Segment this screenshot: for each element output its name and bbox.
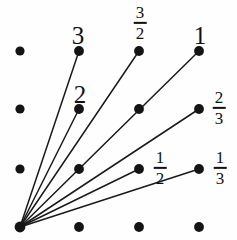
lattice-dot [134,104,144,114]
slope-label-3: 3 [72,23,85,48]
slope-label-2: 2 [74,82,87,107]
lattice-dot [15,46,24,55]
ray-slope-3-over-2 [20,51,139,227]
ray-slope-2 [20,109,79,227]
ray-slope-3 [20,51,79,227]
lattice-dot [194,222,204,232]
fraction-denominator: 2 [154,170,167,187]
fraction-denominator: 3 [214,170,227,187]
lattice-dot [15,104,24,113]
ray-slope-2-over-3 [20,109,199,227]
fraction-numerator: 2 [213,89,226,106]
slope-label-2-over-3: 2 3 [213,89,226,127]
lattice-dot [15,164,24,173]
lattice-dot [194,104,204,114]
lattice-dot [74,222,84,232]
fraction-numerator: 1 [214,149,227,166]
slope-label-1-over-3: 1 3 [214,149,227,187]
slope-label-1-over-2: 1 2 [154,149,167,187]
slope-label-3-over-2: 3 2 [134,4,147,42]
lattice-dot [74,164,84,174]
lattice-dot [134,46,144,56]
lattice-dot [134,222,144,232]
lattice-dot-origin [15,222,26,233]
fraction-numerator: 3 [134,4,147,21]
fraction-denominator: 3 [213,110,226,127]
slope-label-1: 1 [194,23,207,48]
lattice-dot [194,164,204,174]
ray-slope-1 [20,51,199,227]
fraction-denominator: 2 [134,25,147,42]
ray-group [20,51,199,227]
lattice-slope-diagram: 3 1 2 3 2 2 3 1 2 1 3 [0,0,237,240]
ray-slope-1-over-3 [20,169,199,227]
fraction-numerator: 1 [154,149,167,166]
lattice-dot [134,164,144,174]
ray-slope-1-over-2 [20,169,139,227]
